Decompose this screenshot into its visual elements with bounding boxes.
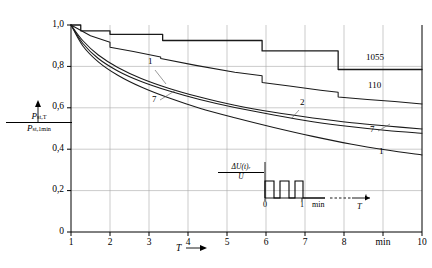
leader-2-2 xyxy=(291,110,299,119)
curve-label-1-0: 1 xyxy=(148,56,153,66)
inset-y-axis-label: ΔU(t)r U xyxy=(218,163,264,181)
curve-label-1-6: 1 xyxy=(379,146,384,156)
leader-7-1 xyxy=(160,90,176,100)
inset-label-numerator: ΔU(t)r xyxy=(218,163,264,172)
data-curves xyxy=(71,25,422,155)
y-tick-1-0: 1,0 xyxy=(38,19,64,29)
x-tick-10: 10 xyxy=(409,237,432,247)
y-axis-label-numerator: Pst,T xyxy=(6,112,72,122)
inset-tick-0: 0 xyxy=(255,200,275,209)
inset-pulse-train xyxy=(265,181,325,198)
y-tick-0-2: 0,2 xyxy=(38,184,64,194)
x-tick-8: 8 xyxy=(331,237,357,247)
x-tick-4: 4 xyxy=(175,237,201,247)
y-tick-0-4: 0,4 xyxy=(38,143,64,153)
x-tick-min: min xyxy=(370,237,396,247)
curve-1 xyxy=(71,25,422,155)
curve-label-110-4: 110 xyxy=(368,80,381,90)
y-axis-label-denominator: Pst,1min xyxy=(6,122,72,133)
inset-label-denominator: U xyxy=(218,172,264,182)
inset-axis-label: T xyxy=(357,201,362,211)
x-axis-ticks xyxy=(71,232,422,236)
inset-tick-1: 1 xyxy=(292,200,312,209)
callout-leader-lines xyxy=(155,70,390,131)
x-tick-1: 1 xyxy=(58,237,84,247)
curve-110 xyxy=(71,25,422,104)
x-tick-2: 2 xyxy=(97,237,123,247)
x-tick-6: 6 xyxy=(253,237,279,247)
y-axis-label: Pst,T Pst,1min xyxy=(6,112,72,134)
x-tick-5: 5 xyxy=(214,237,240,247)
curve-label-7-1: 7 xyxy=(152,94,157,104)
x-tick-3: 3 xyxy=(136,237,162,247)
curve-label-1055-3: 1055 xyxy=(366,52,384,62)
y-tick-0: 0 xyxy=(38,226,64,236)
inset-unit-label: min xyxy=(312,200,324,209)
y-tick-0-8: 0,8 xyxy=(38,60,64,70)
x-tick-7: 7 xyxy=(292,237,318,247)
y-tick-0-6: 0,6 xyxy=(38,101,64,111)
curve-label-2-2: 2 xyxy=(300,97,305,107)
curve-1055 xyxy=(71,25,422,70)
leader-1-0 xyxy=(155,70,166,84)
curve-label-7-5: 7 xyxy=(370,124,375,134)
